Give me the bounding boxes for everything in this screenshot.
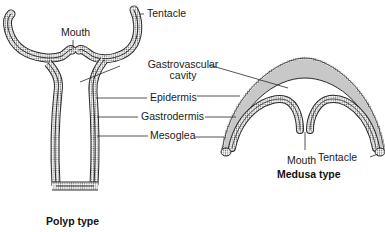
gastrovascular-cavity-label: Gastrovascular cavity (145, 59, 221, 81)
medusa-body (221, 58, 385, 156)
gastrovascular-line2: cavity (170, 69, 197, 81)
polyp-type-title: Polyp type (46, 215, 99, 227)
polyp-tentacle-label: Tentacle (147, 8, 186, 19)
medusa-mouth-label: Mouth (287, 155, 316, 166)
medusa-mesoglea (222, 58, 385, 152)
polyp-mouth-label: Mouth (61, 27, 90, 38)
epidermis-label: Epidermis (150, 92, 197, 103)
mesoglea-label: Mesoglea (150, 130, 196, 141)
gastrodermis-label: Gastrodermis (141, 111, 204, 122)
medusa-type-title: Medusa type (277, 168, 341, 180)
medusa-tentacle-label: Tentacle (318, 152, 357, 163)
medusa-tentacle-left (221, 148, 231, 156)
